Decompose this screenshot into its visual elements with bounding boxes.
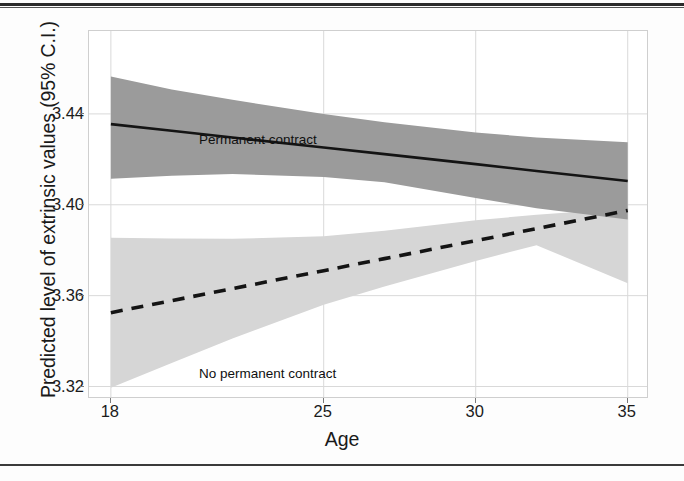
x-axis-tick-labels: 18253035	[88, 402, 648, 428]
series-label-permanent-contract: Permanent contract	[199, 132, 317, 147]
x-axis-tick-label: 30	[445, 402, 505, 421]
confidence-band-permanent-contract	[111, 76, 628, 219]
x-axis-tick-label: 25	[293, 402, 353, 421]
plot-svg	[89, 31, 648, 398]
y-axis-tick-mark	[79, 113, 84, 114]
y-axis-tick-label: 3.32	[6, 376, 84, 395]
x-axis-tick-mark	[323, 398, 324, 403]
y-axis-tick-label: 3.36	[6, 285, 84, 304]
series-label-no-permanent-contract: No permanent contract	[199, 366, 336, 381]
chart-area: Predicted level of extrinsic values (95%…	[0, 10, 684, 462]
y-axis-tick-mark	[79, 386, 84, 387]
x-axis-tick-mark	[110, 398, 111, 403]
confidence-band-no-permanent-contract	[111, 208, 628, 387]
y-axis-tick-labels: 3.443.403.363.32	[0, 30, 84, 398]
y-axis-tick-mark	[79, 204, 84, 205]
confidence-bands	[111, 76, 628, 387]
x-axis-tick-mark	[627, 398, 628, 403]
x-axis-tick-mark	[475, 398, 476, 403]
figure-container: Predicted level of extrinsic values (95%…	[0, 0, 684, 481]
y-axis-tick-mark	[79, 295, 84, 296]
y-axis-tick-label: 3.40	[6, 194, 84, 213]
x-axis-title: Age	[0, 428, 684, 451]
top-rule-divider-thin	[0, 7, 684, 8]
top-rule-divider	[0, 3, 684, 6]
x-axis-tick-label: 18	[80, 402, 140, 421]
y-axis-tick-label: 3.44	[6, 103, 84, 122]
plot-panel: Permanent contract No permanent contract	[88, 30, 648, 398]
x-axis-tick-label: 35	[597, 402, 657, 421]
bottom-rule-divider	[0, 464, 684, 466]
